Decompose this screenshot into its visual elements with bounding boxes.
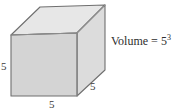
- dimension-label-right: 5: [90, 81, 96, 92]
- volume-formula: Volume = 53: [111, 35, 171, 47]
- cube-volume-figure: 5 5 5 Volume = 53: [0, 0, 174, 108]
- cropped-text-artifact: [62, 0, 174, 4]
- cube-drawing: [0, 0, 174, 108]
- dimension-label-bottom: 5: [49, 99, 55, 108]
- volume-formula-exponent: 3: [167, 33, 171, 42]
- dimension-label-left: 5: [1, 61, 7, 72]
- cube-front-face: [11, 33, 77, 96]
- volume-formula-base: Volume = 5: [111, 34, 167, 48]
